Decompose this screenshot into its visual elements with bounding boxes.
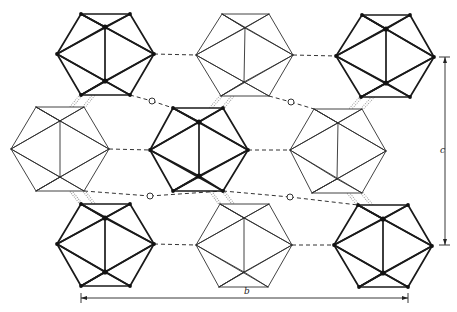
icosahedron-bottom-left (55, 202, 156, 288)
atom-icon (360, 13, 364, 17)
atom-icon (406, 285, 410, 289)
atom-icon (128, 284, 132, 288)
icosahedra-packing-diagram: c b (0, 0, 457, 312)
atom-icon (356, 203, 360, 207)
arrowhead-left-icon (81, 296, 87, 300)
atom-icon (357, 285, 361, 289)
atom-icon (332, 243, 336, 247)
atom-icon (148, 148, 152, 152)
atom-icon (221, 106, 225, 110)
icosahedron-bottom-middle (196, 204, 292, 287)
atom-icon (408, 13, 412, 17)
icosahedron-top-left (55, 12, 156, 97)
atom-icon (128, 12, 132, 16)
atom-icon (55, 52, 59, 56)
interstitial-bond (84, 191, 223, 199)
atom-icon (334, 54, 338, 58)
atom-icon (246, 148, 250, 152)
atom-icon (383, 80, 388, 85)
atom-icon (196, 173, 201, 178)
interstitial-bond (269, 96, 314, 109)
icosahedron-top-middle (196, 14, 293, 96)
atom-icon (196, 119, 201, 124)
dashed-bond (293, 55, 336, 56)
interstitial-atom-icon (149, 98, 155, 104)
atom-icon (359, 95, 363, 99)
atom-icon (383, 26, 388, 31)
diagram-canvas: c b (0, 0, 457, 312)
atom-icon (128, 93, 132, 97)
atom-icon (432, 55, 436, 59)
dashed-bond (109, 149, 150, 150)
atom-icon (152, 242, 156, 246)
atom-icon (408, 95, 412, 99)
dashed-bond (154, 244, 196, 245)
atom-icon (171, 189, 175, 193)
atom-icon (79, 202, 83, 206)
atom-icon (102, 215, 107, 220)
icosahedra-layer (11, 12, 436, 289)
atom-icon (55, 242, 59, 246)
dashed-bond (154, 54, 196, 55)
interstitial-atom-icon (288, 99, 294, 105)
arrowhead-up-icon (443, 57, 447, 63)
atom-icon (128, 202, 132, 206)
icosahedron-mid-left (11, 107, 109, 191)
atom-icon (430, 244, 434, 248)
c-axis-dimension: c (439, 57, 450, 245)
icosahedron-mid-center (148, 106, 250, 193)
atom-icon (171, 106, 175, 110)
atom-icon (102, 269, 107, 274)
b-axis-label: b (244, 286, 250, 296)
atom-icon (79, 284, 83, 288)
icosahedron-top-right (334, 13, 436, 99)
atom-icon (380, 270, 385, 275)
atom-icon (79, 12, 83, 16)
atom-icon (152, 52, 156, 56)
interstitial-atom-icon (287, 194, 293, 200)
icosahedron-bottom-right (332, 203, 434, 289)
arrowhead-down-icon (443, 239, 447, 245)
atom-icon (406, 203, 410, 207)
atom-icon (380, 216, 385, 221)
atom-icon (102, 78, 107, 83)
icosahedron-mid-right (290, 109, 386, 193)
atom-icon (221, 189, 225, 193)
c-axis-label: c (440, 145, 445, 155)
arrowhead-right-icon (402, 296, 408, 300)
atom-icon (102, 24, 107, 29)
atom-icon (79, 93, 83, 97)
interstitial-atom-icon (147, 193, 153, 199)
interstitial-bond (130, 95, 173, 108)
